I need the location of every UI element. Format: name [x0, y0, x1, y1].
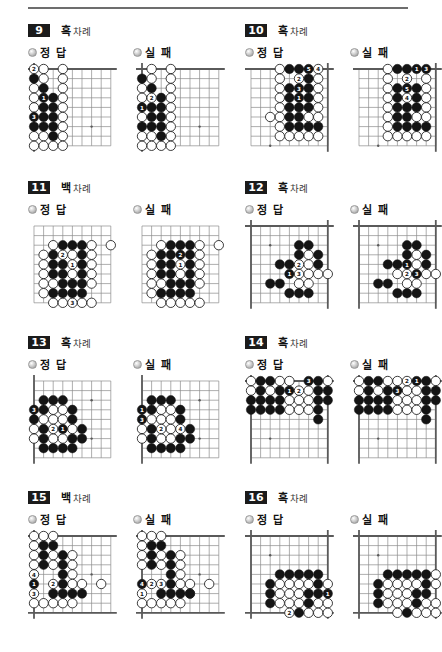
move-number-4: 4: [316, 66, 320, 72]
white-stone: [29, 83, 38, 92]
white-stone: [383, 579, 392, 588]
move-number-2: 2: [287, 610, 291, 616]
white-stone: [246, 376, 255, 385]
top-divider-rule: [28, 7, 408, 9]
black-stone: [175, 405, 184, 414]
move-number-1: 1: [140, 591, 144, 597]
black-stone: [58, 395, 67, 404]
black-stone: [185, 260, 194, 269]
star-point: [198, 399, 200, 401]
star-point: [269, 437, 271, 439]
black-stone: [304, 74, 313, 83]
white-stone: [137, 434, 146, 443]
white-stone: [304, 260, 313, 269]
white-stone: [48, 598, 57, 607]
black-stone: [383, 570, 392, 579]
diagram-boards: 21321: [28, 63, 218, 152]
turn-color-label: 백: [61, 182, 71, 195]
bullet-stone-icon: [133, 48, 142, 57]
diagram-label-text: 정 답: [40, 511, 67, 527]
white-stone: [275, 93, 284, 102]
move-number-5: 5: [405, 86, 409, 92]
bullet-stone-icon: [245, 360, 254, 369]
white-stone: [87, 240, 96, 249]
white-stone: [421, 83, 430, 92]
white-stone: [421, 93, 430, 102]
black-stone: [304, 83, 313, 92]
black-stone: [77, 424, 86, 433]
white-stone: [147, 415, 156, 424]
black-stone: [364, 386, 373, 395]
turn-suffix-label: 차례: [290, 26, 308, 37]
star-point: [377, 437, 379, 439]
black-stone: [175, 443, 184, 452]
white-stone: [383, 64, 392, 73]
move-number-2: 2: [405, 271, 409, 277]
black-stone: [373, 405, 382, 414]
black-stone: [402, 288, 411, 297]
white-stone: [195, 279, 204, 288]
failure-label: 실 패: [350, 45, 389, 59]
turn-suffix-label: 차례: [290, 338, 308, 349]
black-stone: [185, 279, 194, 288]
answer-diagram: 321: [28, 375, 117, 464]
black-stone: [313, 395, 322, 404]
white-stone: [313, 103, 322, 112]
diagram-label-text: 정 답: [257, 201, 284, 217]
white-stone: [166, 122, 175, 131]
white-stone: [48, 298, 57, 307]
move-number-1: 1: [405, 262, 409, 268]
white-stone: [147, 74, 156, 83]
black-stone: [29, 415, 38, 424]
diagram-label-text: 정 답: [257, 44, 284, 60]
black-stone: [48, 131, 57, 140]
white-stone: [313, 598, 322, 607]
white-stone: [166, 74, 175, 83]
black-stone: [313, 376, 322, 385]
white-stone: [39, 288, 48, 297]
move-number-3: 3: [414, 271, 418, 277]
black-stone: [373, 589, 382, 598]
white-stone: [29, 550, 38, 559]
diagram-labels: 정 답실 패: [245, 512, 437, 526]
bullet-stone-icon: [133, 205, 142, 214]
black-stone: [58, 579, 67, 588]
black-stone: [294, 112, 303, 121]
white-stone: [58, 83, 67, 92]
white-stone: [29, 131, 38, 140]
problem-header: 13흑차례: [28, 334, 218, 350]
white-stone: [166, 103, 175, 112]
diagram-labels: 정 답실 패: [28, 357, 218, 371]
black-stone: [77, 288, 86, 297]
white-stone: [195, 250, 204, 259]
white-stone: [313, 608, 322, 617]
black-stone: [412, 598, 421, 607]
white-stone: [392, 589, 401, 598]
answer-diagram: 12: [245, 530, 334, 619]
black-stone: [166, 589, 175, 598]
move-number-1: 1: [326, 591, 330, 597]
bullet-stone-icon: [350, 515, 359, 524]
black-stone: [285, 93, 294, 102]
white-stone: [313, 74, 322, 83]
black-stone: [364, 395, 373, 404]
white-stone: [275, 598, 284, 607]
white-stone: [383, 376, 392, 385]
answer-diagram: 312: [245, 375, 334, 464]
white-stone: [68, 570, 77, 579]
white-stone: [147, 250, 156, 259]
white-stone: [39, 279, 48, 288]
move-number-3: 3: [307, 378, 311, 384]
move-number-3: 3: [395, 388, 399, 394]
bullet-stone-icon: [28, 48, 37, 57]
failure-label: 실 패: [133, 512, 172, 526]
diagram-labels: 정 답실 패: [28, 45, 218, 59]
black-stone: [246, 405, 255, 414]
turn-color-label: 흑: [61, 25, 71, 38]
white-stone: [29, 531, 38, 540]
white-stone: [275, 579, 284, 588]
problem-11: 11백차례정 답실 패12312: [0, 175, 218, 330]
white-stone: [137, 560, 146, 569]
white-stone: [156, 531, 165, 540]
star-point: [377, 244, 379, 246]
